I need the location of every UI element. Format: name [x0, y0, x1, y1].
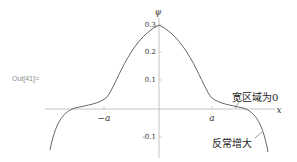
x-tick-a: a [209, 113, 214, 123]
y-tick-0.2: 0.2 [145, 48, 156, 56]
plot-area: 0.3 0.2 0.1 -0.1 −a a ψ x 宽区域为0 反常增大 [0, 0, 297, 162]
annotation-anomalous-growth: 反常增大 [212, 137, 252, 149]
x-tick-neg-a: −a [98, 113, 111, 123]
x-axis-label: x [276, 105, 281, 115]
y-axis-label: ψ [154, 7, 162, 17]
x-axis-ticks [104, 106, 212, 109]
y-axis-ticks [159, 25, 162, 137]
y-tick-0.1: 0.1 [145, 76, 156, 84]
annotation-leader-tail [255, 132, 262, 138]
annotation-wide-region-zero: 宽区域为0 [232, 91, 278, 103]
y-tick-neg0.1: -0.1 [143, 133, 157, 141]
